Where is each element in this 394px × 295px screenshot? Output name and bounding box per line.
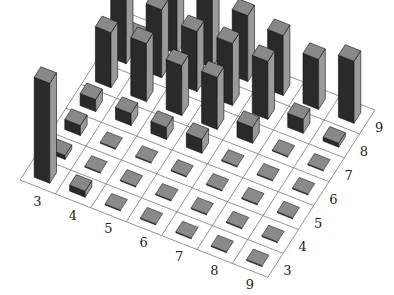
bar — [176, 221, 198, 239]
bar — [95, 16, 117, 88]
bar — [136, 146, 158, 164]
bar — [226, 211, 248, 229]
y-tick-label: 4 — [299, 239, 307, 254]
bar — [120, 170, 142, 188]
bar — [131, 27, 153, 102]
y-tick-label: 9 — [375, 120, 383, 135]
bar — [252, 45, 274, 120]
bars — [34, 0, 361, 267]
bar — [303, 43, 325, 110]
y-tick-label: 7 — [345, 168, 353, 183]
bar — [156, 183, 178, 201]
x-tick-label: 6 — [140, 235, 148, 250]
x-tick-label: 3 — [33, 194, 41, 209]
bar — [323, 127, 345, 148]
bar — [100, 132, 122, 150]
bar — [338, 45, 360, 124]
bar — [140, 207, 162, 225]
bar — [262, 225, 284, 243]
bar — [151, 111, 173, 140]
bar — [80, 83, 102, 112]
bar — [206, 173, 228, 191]
bar — [166, 49, 188, 116]
y-tick-label: 8 — [360, 144, 368, 159]
bar — [242, 187, 264, 205]
bar — [171, 160, 193, 178]
bar — [257, 163, 279, 181]
bar — [277, 201, 299, 219]
bar — [65, 109, 87, 136]
bar — [308, 153, 330, 171]
bar — [247, 249, 269, 267]
x-tick-label: 9 — [246, 277, 254, 292]
x-tick-label: 7 — [175, 249, 183, 264]
bar — [202, 61, 224, 130]
bar — [105, 193, 127, 211]
bar — [237, 111, 259, 144]
bar3d-chart: 3456789 3456789 — [0, 0, 394, 295]
y-tick-label: 6 — [329, 192, 337, 207]
y-tick-label: 5 — [314, 216, 322, 231]
bar — [34, 67, 56, 184]
bar — [191, 197, 213, 215]
bar — [211, 235, 233, 253]
bar — [85, 156, 107, 174]
bar — [70, 175, 92, 198]
bar — [292, 177, 314, 195]
x-tick-label: 4 — [69, 208, 77, 223]
bar — [115, 97, 137, 126]
bar — [222, 150, 244, 168]
x-tick-label: 5 — [104, 221, 112, 236]
x-tick-label: 8 — [210, 263, 218, 278]
bar — [272, 140, 294, 158]
y-tick-label: 3 — [283, 263, 291, 278]
